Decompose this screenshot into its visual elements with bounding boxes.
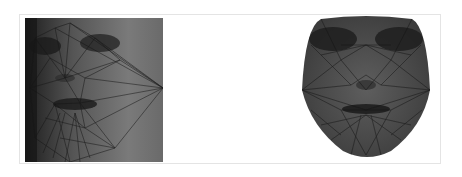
frontal-warped-face-mesh-image	[301, 15, 432, 161]
original-face-mesh-image	[25, 18, 163, 162]
